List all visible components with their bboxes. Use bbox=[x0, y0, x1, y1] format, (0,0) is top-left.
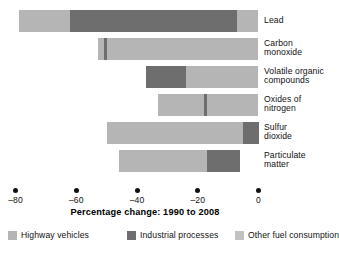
bar-row bbox=[0, 38, 333, 60]
bar[interactable] bbox=[146, 66, 258, 88]
bar-row bbox=[0, 10, 333, 32]
bar-segment[interactable] bbox=[237, 10, 258, 32]
axis-title: Percentage change: 1990 to 2008 bbox=[0, 207, 290, 217]
legend-swatch-icon bbox=[127, 231, 136, 240]
legend-swatch-icon bbox=[8, 231, 17, 240]
bar-segment[interactable] bbox=[107, 38, 259, 60]
bar-segment[interactable] bbox=[70, 10, 237, 32]
legend-label: Industrial processes bbox=[140, 230, 218, 240]
bar-row bbox=[0, 150, 333, 172]
axis-tick-label: –40 bbox=[120, 195, 154, 205]
bar-segment[interactable] bbox=[158, 94, 204, 116]
axis-tick-label: 0 bbox=[242, 195, 276, 205]
bar[interactable] bbox=[158, 94, 258, 116]
bar[interactable] bbox=[19, 10, 259, 32]
legend-item[interactable]: Industrial processes bbox=[127, 228, 218, 242]
axis-tick-dot bbox=[13, 188, 18, 193]
bar[interactable] bbox=[119, 150, 241, 172]
axis-tick-label: –60 bbox=[59, 195, 93, 205]
bar-row bbox=[0, 94, 333, 116]
bar-segment[interactable] bbox=[146, 66, 185, 88]
legend-item[interactable]: Other fuel consumption bbox=[235, 228, 339, 242]
axis-tick-dot bbox=[74, 188, 79, 193]
bar-segment[interactable] bbox=[207, 150, 240, 172]
bar[interactable] bbox=[107, 122, 259, 144]
axis-tick-label: –80 bbox=[0, 195, 33, 205]
axis-tick-dot bbox=[135, 188, 140, 193]
legend-item[interactable]: Highway vehicles bbox=[8, 228, 89, 242]
bar-segment[interactable] bbox=[119, 150, 207, 172]
legend-label: Highway vehicles bbox=[21, 230, 89, 240]
bar-segment[interactable] bbox=[19, 10, 71, 32]
chart-legend: Highway vehiclesIndustrial processesOthe… bbox=[0, 228, 333, 244]
bar-row bbox=[0, 66, 333, 88]
legend-swatch-icon bbox=[235, 231, 244, 240]
axis-tick-dot bbox=[195, 188, 200, 193]
bar[interactable] bbox=[98, 38, 259, 60]
bar-segment[interactable] bbox=[107, 122, 244, 144]
bar-segment[interactable] bbox=[186, 66, 259, 88]
bar-segment[interactable] bbox=[243, 122, 258, 144]
legend-label: Other fuel consumption bbox=[248, 230, 339, 240]
axis-tick-label: –20 bbox=[181, 195, 215, 205]
bar-row bbox=[0, 122, 333, 144]
bar-segment[interactable] bbox=[207, 94, 259, 116]
axis-tick-dot bbox=[256, 188, 261, 193]
plot-area: LeadCarbon monoxideVolatile organic comp… bbox=[0, 0, 333, 186]
